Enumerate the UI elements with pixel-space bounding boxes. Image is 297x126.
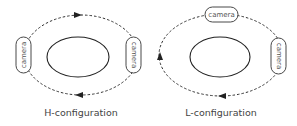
- h-arrow-bottom-left-icon: [75, 92, 83, 98]
- l-arrow-bottom-left-icon: [218, 93, 226, 99]
- l-object: [190, 37, 250, 77]
- l-camera-right: camera: [271, 38, 286, 74]
- h-camera-left-label: camera: [20, 42, 28, 68]
- h-object: [47, 37, 109, 77]
- h-configuration-diagram: camera camera H-configuration: [16, 12, 141, 118]
- h-camera-right: camera: [126, 37, 141, 73]
- h-camera-right-label: camera: [130, 42, 138, 68]
- l-configuration-label: L-configuration: [185, 107, 257, 118]
- l-camera-top-label: camera: [208, 11, 234, 19]
- h-orbit-path: [24, 15, 138, 95]
- h-arrow-top-right-icon: [74, 12, 82, 18]
- camera-configuration-diagrams: camera camera H-configuration camera cam…: [0, 0, 297, 126]
- l-camera-right-label: camera: [275, 43, 283, 69]
- l-arrow-left-up-icon: [157, 52, 163, 60]
- h-configuration-label: H-configuration: [44, 107, 118, 118]
- l-camera-top: camera: [205, 7, 238, 22]
- h-camera-left: camera: [16, 37, 31, 73]
- l-configuration-diagram: camera camera L-configuration: [157, 7, 286, 118]
- l-orbit-path: [159, 14, 283, 96]
